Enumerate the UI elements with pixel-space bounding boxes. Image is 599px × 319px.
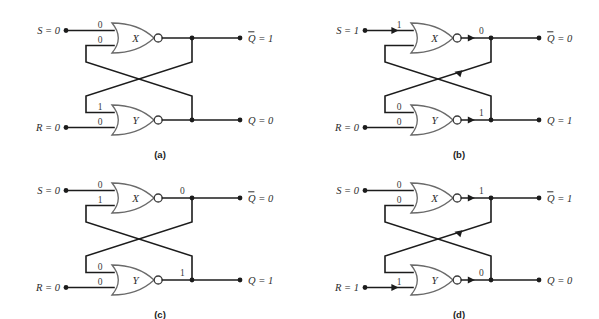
q-output-label: Q = 0 bbox=[248, 115, 274, 126]
reset-input-label: R = 1 bbox=[334, 282, 359, 293]
y-input-bottom-bit: 0 bbox=[397, 117, 402, 127]
x-input-top-bit: 1 bbox=[397, 20, 402, 30]
qbar-output-text: Q = 0 bbox=[547, 33, 573, 44]
latch-panel-a: XYS = 0R = 00010Q = 1Q = 0(a) bbox=[35, 20, 274, 160]
x-input-top-bit: 0 bbox=[98, 180, 103, 190]
x-nor-inversion-bubble bbox=[154, 194, 162, 202]
qbar-output-label: Q = 0 bbox=[248, 192, 274, 204]
panel-caption: (c) bbox=[154, 309, 166, 319]
qbar-output-bit: 0 bbox=[479, 26, 484, 36]
reset-input-label: R = 0 bbox=[35, 282, 61, 293]
qbar-output-label: Q = 1 bbox=[547, 192, 572, 204]
q-output-label: Q = 1 bbox=[547, 115, 572, 126]
panel-caption: (b) bbox=[453, 149, 465, 160]
y-gate-feedback-wire bbox=[385, 198, 491, 273]
qbar-output-bit: 1 bbox=[479, 186, 484, 196]
reset-input-label: R = 0 bbox=[334, 122, 360, 133]
q-output-arrow bbox=[468, 276, 475, 283]
x-gate-label: X bbox=[131, 192, 140, 204]
qbar-output-label: Q = 1 bbox=[248, 32, 273, 44]
qbar-output-arrow bbox=[468, 194, 475, 201]
reset-input-label: R = 0 bbox=[35, 122, 61, 133]
qbar-output-arrow bbox=[468, 34, 475, 41]
set-input-label: S = 0 bbox=[37, 25, 61, 36]
y-input-bottom-bit: 0 bbox=[98, 117, 103, 127]
qbar-output-terminal bbox=[537, 196, 542, 201]
q-output-terminal bbox=[238, 118, 243, 123]
y-input-top-bit: 0 bbox=[397, 102, 402, 112]
q-output-bit: 1 bbox=[479, 108, 484, 118]
q-output-text: Q = 0 bbox=[248, 115, 274, 126]
q-output-bit: 0 bbox=[479, 268, 484, 278]
x-input-bottom-bit: 0 bbox=[397, 195, 402, 205]
circuit-diagram-svg: XYS = 0R = 00010Q = 1Q = 0(a)XYS = 1R = … bbox=[0, 0, 599, 319]
q-output-bit: 1 bbox=[180, 268, 185, 278]
qbar-output-text: Q = 0 bbox=[248, 193, 274, 204]
latch-panel-d: XYS = 0R = 100110Q = 1Q = 0(d) bbox=[334, 180, 573, 319]
x-input-top-bit: 0 bbox=[397, 180, 402, 190]
latch-panel-c: XYS = 0R = 0010001Q = 0Q = 1(c) bbox=[35, 180, 274, 319]
q-output-label: Q = 1 bbox=[248, 275, 273, 286]
y-nor-inversion-bubble bbox=[453, 116, 461, 124]
y-nor-inversion-bubble bbox=[453, 276, 461, 284]
qbar-output-label: Q = 0 bbox=[547, 32, 573, 44]
x-input-bottom-bit: 0 bbox=[98, 35, 103, 45]
q-output-terminal bbox=[537, 278, 542, 283]
q-output-terminal bbox=[537, 118, 542, 123]
y-input-top-bit: 0 bbox=[98, 262, 103, 272]
y-nor-inversion-bubble bbox=[154, 116, 162, 124]
x-input-top-bit: 0 bbox=[98, 20, 103, 30]
y-input-bottom-bit: 0 bbox=[98, 277, 103, 287]
panel-caption: (a) bbox=[154, 149, 166, 160]
q-output-text: Q = 1 bbox=[248, 275, 273, 286]
x-gate-label: X bbox=[430, 192, 439, 204]
qbar-output-text: Q = 1 bbox=[248, 33, 273, 44]
panel-caption: (d) bbox=[453, 309, 465, 319]
qbar-output-text: Q = 1 bbox=[547, 193, 572, 204]
qbar-output-bit: 0 bbox=[180, 186, 185, 196]
qbar-output-terminal bbox=[537, 36, 542, 41]
set-input-label: S = 0 bbox=[336, 185, 360, 196]
y-input-top-bit: 1 bbox=[98, 102, 103, 112]
latch-panel-b: XYS = 1R = 010001Q = 0Q = 1(b) bbox=[334, 20, 573, 160]
qbar-output-terminal bbox=[238, 196, 243, 201]
set-input-label: S = 0 bbox=[37, 185, 61, 196]
q-output-label: Q = 0 bbox=[547, 275, 573, 286]
x-input-bottom-bit: 1 bbox=[98, 195, 103, 205]
x-nor-inversion-bubble bbox=[453, 194, 461, 202]
x-nor-inversion-bubble bbox=[453, 34, 461, 42]
set-input-label: S = 1 bbox=[336, 25, 359, 36]
q-output-terminal bbox=[238, 278, 243, 283]
q-output-text: Q = 0 bbox=[547, 275, 573, 286]
qbar-output-terminal bbox=[238, 36, 243, 41]
x-nor-inversion-bubble bbox=[154, 34, 162, 42]
y-nor-inversion-bubble bbox=[154, 276, 162, 284]
x-gate-feedback-wire bbox=[385, 206, 491, 281]
y-input-bottom-bit: 1 bbox=[397, 277, 402, 287]
x-gate-label: X bbox=[131, 32, 140, 44]
q-output-arrow bbox=[468, 116, 475, 123]
x-gate-label: X bbox=[430, 32, 439, 44]
figure-canvas: XYS = 0R = 00010Q = 1Q = 0(a)XYS = 1R = … bbox=[0, 0, 599, 319]
q-output-text: Q = 1 bbox=[547, 115, 572, 126]
